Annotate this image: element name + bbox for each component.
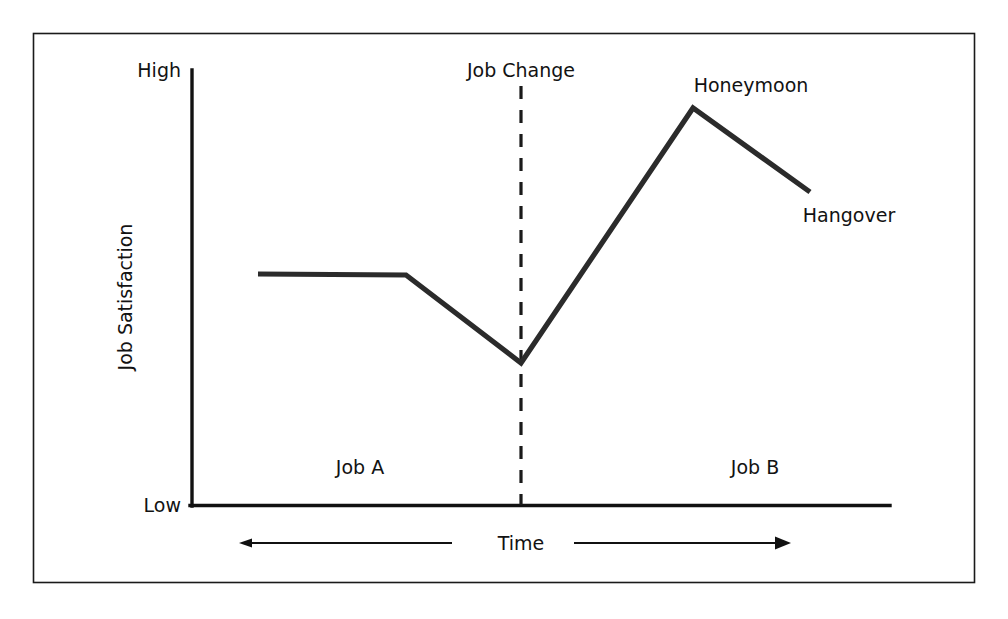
job-satisfaction-line-chart: High Low Job Satisfaction Job Change Hon… [0, 0, 1008, 619]
job-b-region-label: Job B [730, 456, 779, 478]
job-a-region-label: Job A [335, 456, 384, 478]
y-axis-high-label: High [137, 59, 181, 81]
y-axis-title: Job Satisfaction [114, 224, 136, 372]
x-axis-title: Time [497, 532, 545, 554]
job-change-label: Job Change [466, 59, 575, 81]
figure-root: High Low Job Satisfaction Job Change Hon… [0, 0, 1008, 619]
y-axis-low-label: Low [144, 494, 181, 516]
hangover-label: Hangover [803, 204, 896, 226]
honeymoon-label: Honeymoon [694, 74, 809, 96]
